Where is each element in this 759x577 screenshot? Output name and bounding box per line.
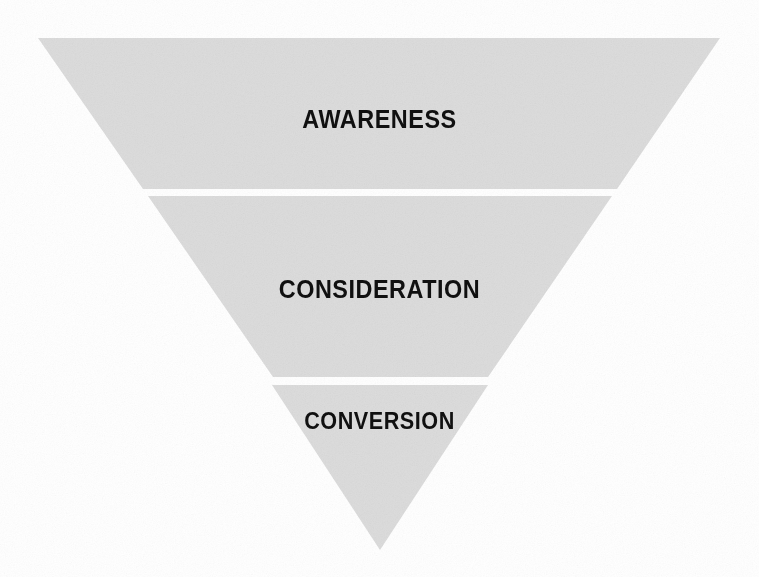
funnel-stage-label-conversion: CONVERSION [38, 409, 721, 433]
funnel-stage-label-awareness: AWARENESS [38, 106, 721, 132]
funnel-stage-label-consideration: CONSIDERATION [38, 276, 721, 302]
funnel-diagram: AWARENESS CONSIDERATION CONVERSION [0, 0, 759, 577]
